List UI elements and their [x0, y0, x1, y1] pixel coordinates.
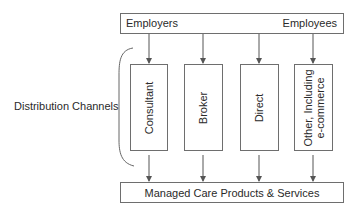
channel-broker-label: Broker: [198, 91, 210, 123]
managed-care-products-label: Managed Care Products & Services: [145, 187, 320, 199]
channel-direct: Direct: [240, 64, 279, 151]
employees-label: Employees: [283, 17, 337, 29]
channel-other-line1: Other, Including: [302, 69, 314, 146]
channel-broker: Broker: [184, 64, 223, 151]
managed-care-products-box: Managed Care Products & Services: [120, 182, 344, 203]
channel-other-line2: e-commerce: [314, 69, 326, 146]
channel-direct-label: Direct: [253, 93, 265, 122]
employers-employees-box: Employers Employees: [120, 13, 344, 34]
channel-other: Other, Including e-commerce: [294, 64, 333, 151]
channel-consultant-label: Consultant: [143, 81, 155, 134]
channel-consultant: Consultant: [130, 64, 168, 151]
employers-label: Employers: [126, 17, 178, 29]
distribution-channels-label: Distribution Channels: [14, 100, 119, 112]
channel-other-label: Other, Including e-commerce: [302, 69, 326, 146]
